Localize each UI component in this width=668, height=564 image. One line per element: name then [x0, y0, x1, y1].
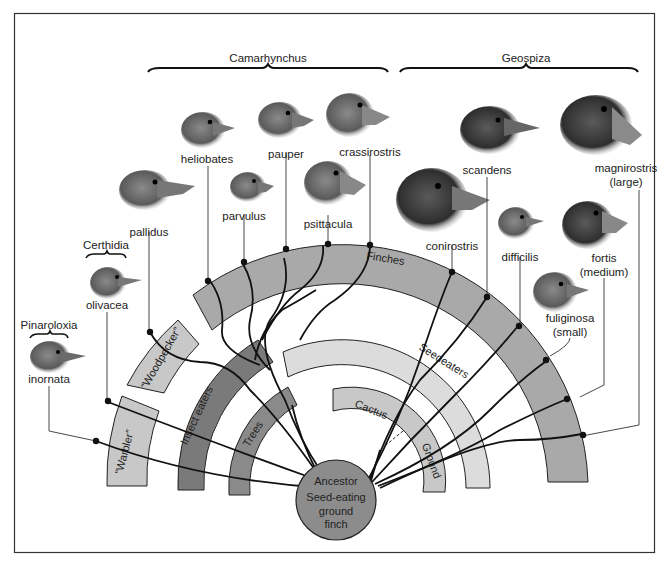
- species-conirostris: conirostris: [426, 240, 479, 252]
- bird-head-psittacula: [304, 161, 366, 205]
- bird-head-pauper: [258, 102, 314, 138]
- finch-phylogeny-diagram: Camarhynchus Geospiza Certhidia Pinarolo…: [0, 0, 668, 564]
- species-parvulus: parvulus: [222, 210, 266, 222]
- bird-head-fuliginosa: [533, 272, 589, 312]
- bird-head-crassirostris: [326, 93, 390, 137]
- species-olivacea: olivacea: [86, 299, 129, 311]
- genus-brace-pinaroloxia: [30, 331, 68, 338]
- species-fortis: fortis: [592, 252, 617, 264]
- genus-label-camarhynchus: Camarhynchus: [229, 52, 307, 64]
- svg-text:finch: finch: [324, 518, 347, 530]
- species-psittacula: psittacula: [304, 218, 353, 230]
- species-fuliginosa: fuliginosa: [546, 312, 595, 324]
- bird-head-olivacea: [90, 267, 142, 299]
- genus-brace-geospiza: [400, 64, 638, 72]
- bird-head-heliobates: [181, 112, 235, 148]
- species-inornata: inornata: [28, 373, 70, 385]
- species-crassirostris: crassirostris: [339, 146, 401, 158]
- species-pauper: pauper: [268, 148, 304, 160]
- ancestor-node: Ancestor Seed-eating ground finch: [296, 460, 376, 540]
- species-magnirostris-note: (large): [609, 176, 642, 188]
- bird-head-fortis: [562, 201, 628, 249]
- band-woodpecker: “Woodpecker”: [127, 320, 199, 393]
- bird-head-pallidus: [119, 170, 195, 210]
- species-difficilis: difficilis: [502, 251, 539, 263]
- bird-head-conirostris: [396, 168, 490, 232]
- species-pallidus: pallidus: [130, 226, 169, 238]
- species-fortis-note: (medium): [580, 266, 629, 278]
- genus-brace-certhidia: [86, 251, 126, 258]
- genus-label-certhidia: Certhidia: [83, 239, 130, 251]
- genus-label-pinaroloxia: Pinaroloxia: [21, 319, 78, 331]
- genus-brace-camarhynchus: [148, 64, 388, 72]
- genus-label-geospiza: Geospiza: [502, 52, 551, 64]
- species-scandens: scandens: [462, 164, 511, 176]
- svg-text:ground: ground: [319, 505, 353, 517]
- band-warbler: “Warbler”: [107, 396, 159, 486]
- species-fuliginosa-note: (small): [553, 326, 588, 338]
- bird-head-inornata: [30, 341, 86, 373]
- bird-head-difficilis: [498, 207, 544, 239]
- species-heliobates: heliobates: [181, 153, 234, 165]
- svg-text:Ancestor: Ancestor: [314, 475, 358, 487]
- bird-head-scandens: [460, 106, 540, 154]
- species-magnirostris: magnirostris: [595, 162, 658, 174]
- bird-head-magnirostris: [560, 95, 642, 155]
- bird-head-parvulus: [230, 172, 274, 202]
- svg-text:Seed-eating: Seed-eating: [306, 491, 365, 503]
- bird-heads: [30, 93, 642, 373]
